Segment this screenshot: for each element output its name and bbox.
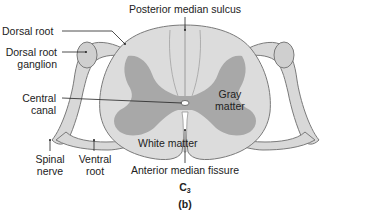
spinal-cord-diagram: Posterior median sulcus Dorsal root Dors… [0,0,371,215]
label-gray-matter: Gray matter [210,88,250,112]
label-dorsal-root: Dorsal root [2,25,53,37]
label-ventral-root: Ventral root [74,153,116,177]
label-panel: (b) [170,198,200,210]
label-dorsal-root-ganglion: Dorsal root ganglion [0,46,57,70]
right-dorsal-root-ganglion [274,42,294,68]
left-dorsal-root-ganglion [77,42,97,68]
label-white-matter: White matter [138,137,198,149]
label-anterior-median-fissure: Anterior median fissure [125,164,245,176]
central-canal [181,101,189,106]
label-level: C3 [170,181,200,197]
label-posterior-median-sulcus: Posterior median sulcus [125,3,245,15]
label-spinal-nerve: Spinal nerve [30,153,70,177]
label-central-canal: Central canal [0,92,56,116]
